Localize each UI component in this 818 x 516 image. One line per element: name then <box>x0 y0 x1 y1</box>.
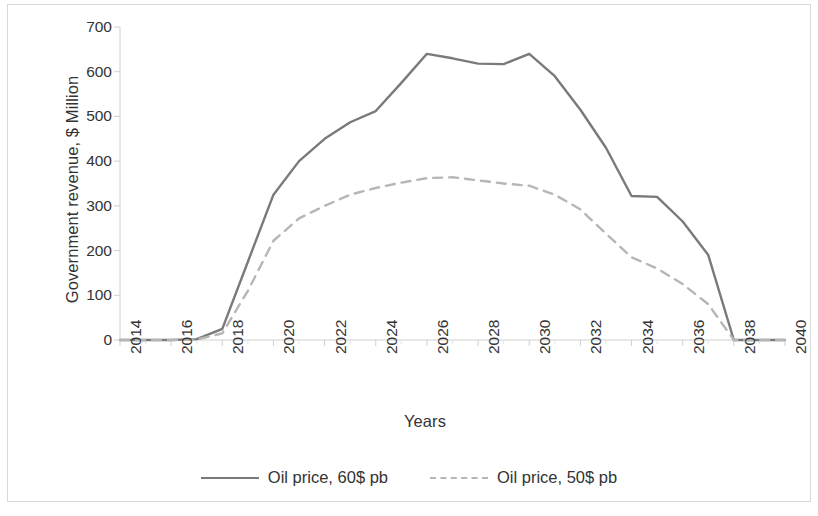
x-tick-label: 2016 <box>178 320 196 354</box>
chart-legend: Oil price, 60$ pb Oil price, 50$ pb <box>0 468 818 487</box>
legend-item-oil-price-50: Oil price, 50$ pb <box>430 468 617 487</box>
x-axis-title: Years <box>120 412 730 431</box>
x-tick-label: 2024 <box>383 320 401 354</box>
x-tick-label: 2038 <box>741 320 759 354</box>
x-tick-label: 2032 <box>587 320 605 354</box>
legend-item-oil-price-60: Oil price, 60$ pb <box>201 468 388 487</box>
legend-swatch-dashed-icon <box>430 477 488 479</box>
x-tick-label: 2028 <box>485 320 503 354</box>
x-tick-label: 2040 <box>792 320 810 354</box>
x-tick-label: 2014 <box>127 320 145 354</box>
x-tick-label: 2036 <box>690 320 708 354</box>
legend-swatch-solid-icon <box>201 477 259 479</box>
x-axis-tick-labels: 2014201620182020202220242026202820302032… <box>0 0 818 516</box>
legend-label-oil-price-60: Oil price, 60$ pb <box>268 468 388 487</box>
x-tick-label: 2026 <box>434 320 452 354</box>
x-tick-label: 2020 <box>280 320 298 354</box>
legend-label-oil-price-50: Oil price, 50$ pb <box>497 468 617 487</box>
chart-figure: 0100200300400500600700 20142016201820202… <box>0 0 818 516</box>
x-tick-label: 2034 <box>639 320 657 354</box>
x-tick-label: 2022 <box>332 320 350 354</box>
x-tick-label: 2018 <box>229 320 247 354</box>
y-axis-title: Government revenue, $ Million <box>63 60 82 320</box>
x-tick-label: 2030 <box>536 320 554 354</box>
